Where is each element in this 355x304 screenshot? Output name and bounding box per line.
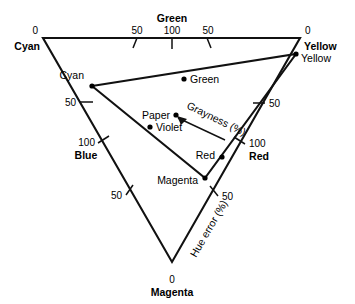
- datapoint-red[interactable]: Red: [196, 149, 225, 161]
- green-point-marker[interactable]: [181, 76, 186, 81]
- datapoint-cyan[interactable]: Cyan: [59, 69, 94, 89]
- tick-label-green-50-right: 50: [202, 25, 214, 36]
- red-point-marker[interactable]: [219, 154, 224, 159]
- corner-label-magenta: Magenta: [151, 286, 194, 298]
- zero-label-cyan: 0: [32, 25, 38, 36]
- tick-label-red-100: 100: [249, 138, 266, 149]
- red-point-label: Red: [196, 149, 215, 161]
- axis-label-green: Green: [157, 12, 187, 24]
- paper-point-marker[interactable]: [173, 112, 178, 117]
- paper-point-label: Paper: [142, 109, 171, 121]
- data-points: Cyan Yellow Magenta Green Paper Violet: [59, 51, 331, 186]
- cyan-point-label: Cyan: [59, 69, 84, 81]
- zero-label-magenta: 0: [169, 274, 175, 285]
- datapoint-violet[interactable]: Violet: [147, 121, 182, 133]
- tick-label-green-100: 100: [164, 25, 181, 36]
- tick-label-red-50-upper: 50: [269, 98, 281, 109]
- blue-axis-group: Blue 50 100 50: [65, 97, 123, 201]
- corner-label-yellow: Yellow: [304, 40, 338, 52]
- grayness-annotation: Grayness (%): [177, 99, 248, 140]
- tick-green-50-right: [207, 38, 211, 48]
- tick-label-blue-50-upper: 50: [65, 97, 77, 108]
- magenta-point-marker[interactable]: [202, 175, 207, 180]
- datapoint-paper[interactable]: Paper: [142, 109, 179, 121]
- violet-point-label: Violet: [156, 121, 182, 133]
- axis-label-blue: Blue: [75, 149, 98, 161]
- datapoint-magenta[interactable]: Magenta: [157, 174, 207, 186]
- tick-label-blue-100: 100: [78, 137, 95, 148]
- color-triangle-figure: 0 0 0 Cyan Yellow Magenta Green 50 100 5…: [0, 0, 355, 304]
- tick-label-blue-50-lower: 50: [111, 190, 123, 201]
- hue-error-annotation: Hue error (%): [187, 198, 229, 259]
- datapoint-green[interactable]: Green: [181, 73, 219, 85]
- violet-point-marker[interactable]: [147, 124, 152, 129]
- axis-label-grayness: Grayness (%): [185, 99, 248, 138]
- yellow-point-label: Yellow: [301, 52, 331, 64]
- axis-label-red: Red: [249, 150, 269, 162]
- tick-label-red-50-lower: 50: [222, 191, 234, 202]
- axis-label-hue-error: Hue error (%): [187, 198, 229, 259]
- datapoint-yellow[interactable]: Yellow: [293, 51, 331, 64]
- zero-label-yellow: 0: [305, 25, 311, 36]
- yellow-point-marker[interactable]: [293, 51, 298, 56]
- axis-ticks: [80, 38, 265, 196]
- cyan-point-marker[interactable]: [89, 83, 94, 88]
- corner-label-cyan: Cyan: [14, 40, 40, 52]
- tick-label-green-50-left: 50: [131, 25, 143, 36]
- tick-green-50-left: [133, 38, 137, 48]
- green-point-label: Green: [190, 73, 219, 85]
- green-axis-group: Green 50 100 50: [131, 12, 214, 36]
- magenta-point-label: Magenta: [157, 174, 198, 186]
- color-triangle-plot: 0 0 0 Cyan Yellow Magenta Green 50 100 5…: [0, 0, 355, 304]
